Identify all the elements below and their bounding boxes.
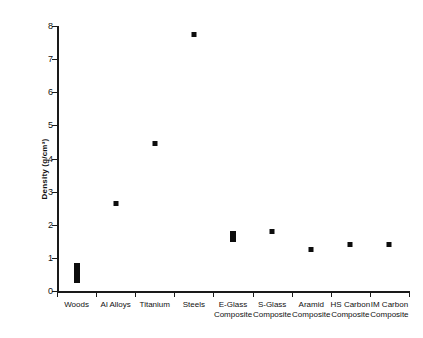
x-tick-mark	[135, 291, 136, 297]
x-axis-label-line1: Al Alloys	[101, 300, 131, 309]
data-marker	[348, 242, 353, 247]
x-axis-label-line2: Composite	[214, 310, 252, 320]
data-marker	[113, 201, 118, 206]
x-axis-label: Woods	[64, 300, 89, 310]
x-axis-label: S-GlassComposite	[253, 300, 291, 320]
chart-figure: Density (g/cm³) 012345678 WoodsAl Alloys…	[0, 0, 423, 338]
x-axis-label-line1: Woods	[64, 300, 89, 309]
x-axis-label: E-GlassComposite	[214, 300, 252, 320]
data-marker	[270, 229, 275, 234]
data-marker	[230, 231, 236, 242]
data-marker	[387, 242, 392, 247]
y-tick-label: 6	[48, 88, 53, 97]
data-marker	[152, 141, 157, 146]
x-tick-mark	[96, 291, 97, 297]
y-tick-label: 3	[48, 187, 53, 196]
y-tick-label: 4	[48, 154, 53, 163]
y-tick-label: 7	[48, 55, 53, 64]
x-axis-label-line1: IM Carbon	[371, 300, 408, 309]
x-axis-label: HS CarbonComposite	[331, 300, 371, 320]
plot-area: 012345678 WoodsAl AlloysTitaniumSteelsE-…	[57, 26, 409, 293]
x-tick-mark	[57, 291, 58, 297]
y-tick-label: 5	[48, 121, 53, 130]
figure-caption	[0, 331, 423, 338]
x-axis-label: Titanium	[140, 300, 170, 310]
x-axis-label-line1: Steels	[183, 300, 205, 309]
y-axis-line	[57, 26, 59, 293]
y-tick-label: 2	[48, 220, 53, 229]
x-axis-label-line1: S-Glass	[258, 300, 286, 309]
x-axis-label: Steels	[183, 300, 205, 310]
x-tick-mark	[253, 291, 254, 297]
x-axis-label-line1: HS Carbon	[331, 300, 371, 309]
x-tick-mark	[174, 291, 175, 297]
x-axis-line	[57, 291, 409, 293]
x-axis-label-line1: Titanium	[140, 300, 170, 309]
x-tick-mark	[331, 291, 332, 297]
x-tick-mark	[409, 291, 410, 297]
y-tick-label: 8	[48, 22, 53, 31]
data-marker	[74, 263, 80, 283]
x-axis-label-line1: Aramid	[299, 300, 324, 309]
x-axis-label: AramidComposite	[292, 300, 330, 320]
data-marker	[309, 247, 314, 252]
y-tick-label: 0	[48, 287, 53, 296]
x-axis-label-line2: Composite	[292, 310, 330, 320]
x-axis-label-line2: Composite	[253, 310, 291, 320]
x-axis-label-line1: E-Glass	[219, 300, 247, 309]
x-axis-label: Al Alloys	[101, 300, 131, 310]
data-marker	[191, 32, 196, 37]
y-tick-label: 1	[48, 253, 53, 262]
x-tick-mark	[370, 291, 371, 297]
x-tick-mark	[213, 291, 214, 297]
x-axis-label: IM CarbonComposite	[370, 300, 408, 320]
x-axis-label-line2: Composite	[331, 310, 371, 320]
x-axis-label-line2: Composite	[370, 310, 408, 320]
x-tick-mark	[292, 291, 293, 297]
